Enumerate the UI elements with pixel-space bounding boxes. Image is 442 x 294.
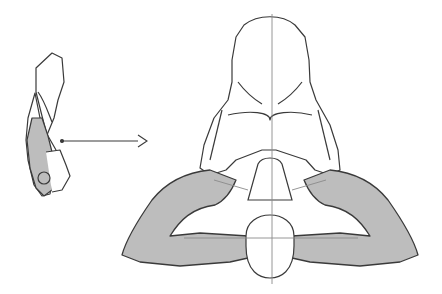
top-view-torso	[200, 17, 340, 175]
head-top-view	[246, 158, 294, 278]
anatomy-drawing	[0, 0, 442, 294]
side-view-figure	[26, 53, 70, 196]
illustration	[0, 0, 442, 294]
arrow-icon	[61, 135, 148, 147]
